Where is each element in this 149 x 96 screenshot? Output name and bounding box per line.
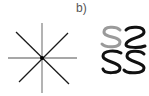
s-glyphs (102, 27, 145, 73)
black-s-glyph-bottom-right (124, 51, 144, 73)
diagram-figure (0, 0, 149, 96)
star-figure (8, 23, 77, 93)
star-center-dot (40, 56, 44, 60)
gray-s-glyph (102, 27, 120, 47)
black-s-glyph-top-right (126, 27, 145, 47)
black-s-glyph-bottom-left (103, 51, 121, 73)
